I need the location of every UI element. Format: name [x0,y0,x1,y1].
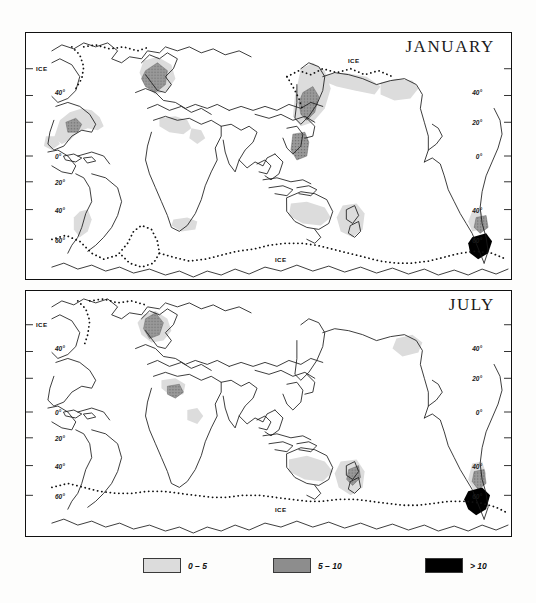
lat-label-right-40n-january: 40° [472,89,482,96]
map-panel-july: JULY [25,290,512,537]
legend-label-high: > 10 [470,561,487,571]
legend-label-low: 0 – 5 [188,561,207,571]
coastlines-january [48,43,508,277]
lat-label-right-0-january: 0° [476,153,482,160]
legend-item-mid: 5 – 10 [273,558,342,573]
map-july-svg [26,291,511,536]
shade-low-july [138,311,487,495]
legend: 0 – 5 5 – 10 > 10 [25,548,512,588]
lat-label-right-60s-january: 60° [472,237,482,244]
ice-boundary-january [52,45,506,267]
lat-label-left-60s-july: 60° [55,493,65,500]
legend-label-mid: 5 – 10 [318,561,342,571]
coastlines-july [48,299,508,533]
figure-page: JANUARY [0,0,536,603]
lat-label-left-0-july: 0° [55,409,61,416]
shade-low-january [44,57,484,238]
lat-label-right-20n-january: 20° [472,119,482,126]
lat-label-left-40n-january: 40° [55,89,65,96]
lat-label-left-40s-january: 40° [55,207,65,214]
ice-label-southern-july: ICE [275,506,287,513]
shade-mid-january [66,63,488,234]
legend-swatch-low [143,558,181,573]
lat-label-left-40s-july: 40° [55,463,65,470]
lat-label-right-0-july: 0° [476,409,482,416]
lat-label-left-40n-july: 40° [55,345,65,352]
ice-boundary-july [52,299,508,513]
ice-label-bering-january: ICE [348,57,360,64]
ice-label-southern-january: ICE [275,256,287,263]
lat-label-left-20s-july: 20° [55,435,65,442]
lat-label-right-40n-july: 40° [472,345,482,352]
legend-item-high: > 10 [425,558,487,573]
lat-label-left-0-january: 0° [55,153,61,160]
lat-label-right-60s-july: 60° [472,493,482,500]
ice-label-arctic-july: ICE [36,321,48,328]
lat-label-right-40s-january: 40° [472,207,482,214]
panel-title-january: JANUARY [405,37,495,57]
panel-title-july: JULY [449,295,495,315]
lat-label-left-60s-january: 60° [55,237,65,244]
map-january-svg [26,33,511,279]
lat-label-left-20s-january: 20° [55,179,65,186]
map-panel-january: JANUARY [25,32,512,280]
legend-item-low: 0 – 5 [143,558,207,573]
lat-label-right-40s-july: 40° [472,463,482,470]
lat-label-right-20n-july: 20° [472,375,482,382]
legend-swatch-mid [273,558,311,573]
ice-label-arctic-january: ICE [36,65,48,72]
legend-swatch-high [425,558,463,573]
